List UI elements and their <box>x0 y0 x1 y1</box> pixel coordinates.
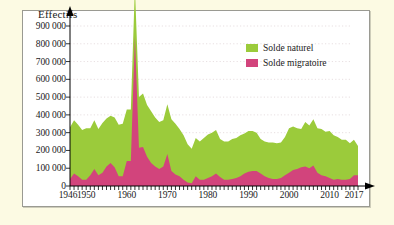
y-tick-label: 100 000 <box>36 163 66 173</box>
legend-label: Solde migratoire <box>263 58 327 68</box>
x-tick-label: 2000 <box>280 190 299 200</box>
chart-figure: Effectifs 0100 000200 000300 000400 0005… <box>0 0 394 225</box>
x-tick-label: 1946 <box>59 190 78 200</box>
x-tick-label: 2017 <box>345 190 364 200</box>
x-tick-label: 1970 <box>158 190 177 200</box>
y-tick-label: 300 000 <box>36 128 66 138</box>
y-tick-label: 900 000 <box>36 21 66 31</box>
y-tick-label: 600 000 <box>36 74 66 84</box>
y-tick-label: 700 000 <box>36 57 66 67</box>
legend-item: Solde naturel <box>246 41 327 54</box>
area-solde-naturel <box>70 0 358 186</box>
legend-swatch-icon <box>246 59 258 67</box>
legend-swatch-icon <box>246 44 258 52</box>
y-tick-label: 200 000 <box>36 145 66 155</box>
y-tick-label: 400 000 <box>36 110 66 120</box>
x-tick-label: 1980 <box>199 190 218 200</box>
chart-legend: Solde naturelSolde migratoire <box>246 41 327 71</box>
x-tick-label: 1960 <box>117 190 136 200</box>
x-tick-label: 1950 <box>77 190 96 200</box>
x-axis-tick-labels: 194619501960197019801990200020102017 <box>0 190 394 210</box>
x-tick-label: 2010 <box>320 190 339 200</box>
y-tick-label: 800 000 <box>36 39 66 49</box>
legend-item: Solde migratoire <box>246 56 327 69</box>
legend-label: Solde naturel <box>263 43 313 53</box>
x-tick-label: 1990 <box>239 190 258 200</box>
y-tick-label: 500 000 <box>36 92 66 102</box>
x-axis-arrow-icon <box>365 182 375 189</box>
